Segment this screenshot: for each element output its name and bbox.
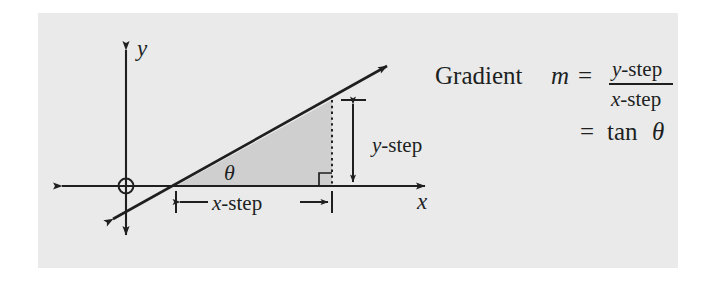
fraction-numerator-suffix: -step: [621, 57, 662, 81]
tan-theta-label: θ: [652, 118, 664, 145]
tan-function-label: tan: [607, 118, 638, 145]
figure-container: y x θ y-step x-step Gradient m = y-step …: [0, 0, 706, 285]
angle-theta-label: θ: [224, 160, 235, 185]
y-step-label: y-step: [370, 133, 422, 157]
y-step-label-suffix: -step: [381, 133, 422, 157]
y-step-label-variable: y: [370, 133, 382, 157]
x-axis-label: x: [416, 189, 428, 214]
second-equals-sign: =: [580, 118, 594, 145]
x-step-label: x-step: [211, 191, 262, 215]
fraction-numerator-variable: y: [610, 57, 622, 81]
gradient-equals-sign: =: [578, 62, 592, 89]
fraction-denominator-suffix: -step: [620, 87, 661, 111]
fraction-denominator: x-step: [610, 87, 661, 111]
x-step-label-suffix: -step: [221, 191, 262, 215]
gradient-word-label: Gradient: [435, 62, 523, 89]
gradient-diagram: y x θ y-step x-step Gradient m = y-step …: [0, 0, 706, 285]
fraction-numerator: y-step: [610, 57, 662, 81]
gradient-symbol-m: m: [551, 62, 569, 89]
y-axis-label: y: [135, 36, 148, 61]
